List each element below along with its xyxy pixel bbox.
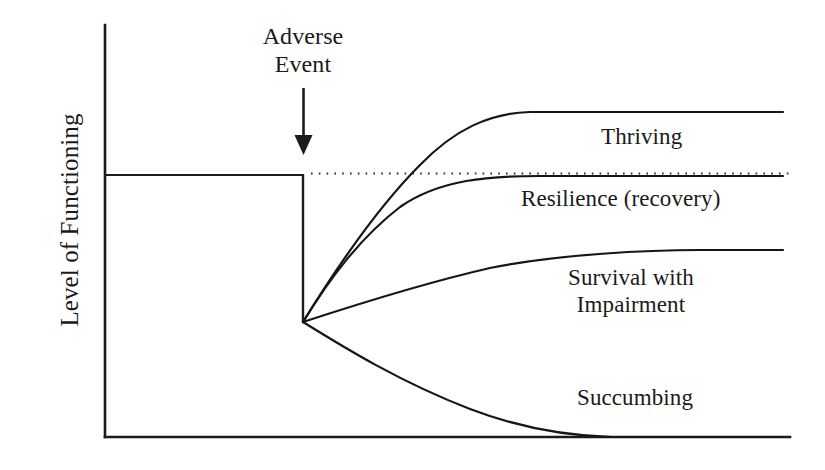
adverse-event-line-1: Adverse	[0, 22, 606, 50]
down-arrow-icon	[295, 88, 313, 155]
survival-label-line-1: Survival with	[537, 264, 725, 291]
succumbing-curve	[303, 322, 783, 437]
y-axis-label: Level of Functioning	[56, 90, 84, 350]
adverse-event-annotation: Adverse Event	[0, 22, 606, 79]
arrow-head	[295, 135, 313, 155]
survival-label-line-2: Impairment	[537, 291, 725, 318]
succumbing-label: Succumbing	[577, 385, 693, 411]
resilience-label: Resilience (recovery)	[521, 186, 720, 212]
resilience-trajectories-figure: Level of Functioning Adverse Event Thriv…	[0, 0, 825, 470]
thriving-label: Thriving	[601, 124, 682, 150]
survival-with-impairment-label: Survival with Impairment	[537, 264, 725, 318]
adverse-event-line-2: Event	[0, 50, 606, 78]
